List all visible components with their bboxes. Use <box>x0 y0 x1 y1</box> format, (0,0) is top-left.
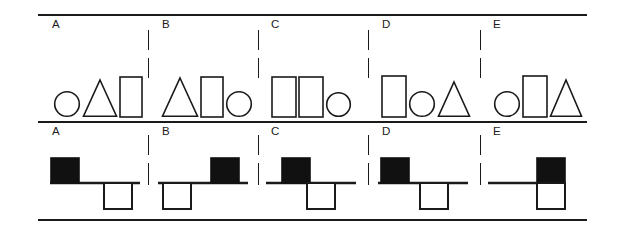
balance-panel-e[interactable]: E <box>480 123 587 218</box>
black-block <box>282 158 310 183</box>
balance-panel-d-label: D <box>382 125 391 138</box>
shape-panel-b-label: B <box>162 18 170 31</box>
rectangle-shape <box>200 76 224 118</box>
balance-panel-a-label: A <box>52 125 60 138</box>
triangle-shape <box>437 80 471 118</box>
shape-panel-a-label: A <box>52 18 60 31</box>
circle-shape <box>53 90 81 118</box>
balance-panel-b-label: B <box>162 125 170 138</box>
rectangle-shape <box>381 75 407 118</box>
triangle-shape <box>82 78 118 118</box>
balance-panel-b[interactable]: B <box>148 123 258 218</box>
balance-panel-c[interactable]: C <box>258 123 368 218</box>
balance-panel-d[interactable]: D <box>368 123 480 218</box>
rectangle-shape <box>298 76 324 118</box>
shape-panel-e-label: E <box>493 18 501 31</box>
balance-diagram-d <box>368 152 480 214</box>
balance-panel-a[interactable]: A <box>38 123 148 218</box>
circle-shape <box>325 91 352 118</box>
black-block <box>537 158 565 183</box>
black-block <box>51 158 79 183</box>
shape-sequence-row: A B <box>38 16 587 120</box>
circle-shape <box>493 90 521 118</box>
balance-diagram-e <box>480 152 587 214</box>
rectangle-shape <box>271 76 297 118</box>
shape-panel-d[interactable]: D <box>368 16 480 120</box>
shape-panel-c-label: C <box>271 18 280 31</box>
white-block <box>163 183 191 209</box>
black-block <box>381 158 409 183</box>
white-block <box>420 183 448 209</box>
shape-panel-b[interactable]: B <box>148 16 258 120</box>
balance-diagram-b <box>148 152 258 214</box>
rectangle-shape <box>522 75 548 118</box>
balance-diagram-c <box>258 152 368 214</box>
shape-panel-e[interactable]: E <box>480 16 587 120</box>
circle-shape <box>408 90 436 118</box>
shape-panel-a[interactable]: A <box>38 16 148 120</box>
circle-shape <box>225 90 253 118</box>
balance-beam-row: A B <box>38 123 587 218</box>
white-block <box>104 183 132 209</box>
balance-panel-e-label: E <box>493 125 501 138</box>
bottom-horizontal-rule <box>38 219 587 221</box>
white-block <box>307 183 335 209</box>
black-block <box>211 158 239 183</box>
shape-panel-d-label: D <box>382 18 391 31</box>
figure-canvas: A B <box>0 0 637 230</box>
triangle-shape <box>549 78 583 118</box>
white-block <box>537 183 565 209</box>
balance-panel-c-label: C <box>271 125 280 138</box>
rectangle-shape <box>119 76 143 118</box>
shape-panel-c[interactable]: C <box>258 16 368 120</box>
balance-diagram-a <box>38 152 148 214</box>
triangle-shape <box>161 76 199 118</box>
